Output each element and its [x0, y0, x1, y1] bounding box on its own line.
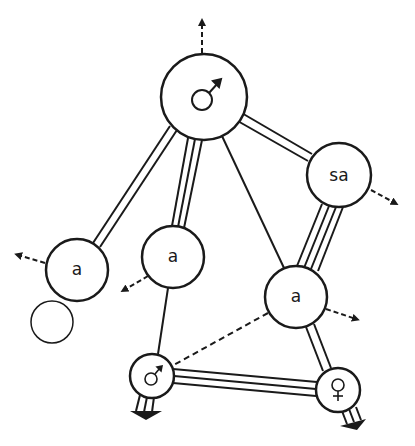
node-a-left: a — [46, 239, 108, 301]
node-label: sa — [329, 165, 348, 185]
dashed-arrow-a-left-left — [18, 255, 45, 263]
node-label: a — [168, 246, 178, 266]
dashed-arrow-sa-down-right — [371, 190, 395, 203]
node-top-male — [161, 54, 247, 140]
self-loop — [31, 301, 73, 343]
node-a-right: a — [265, 266, 327, 328]
node-female — [316, 368, 360, 412]
node-label: a — [72, 259, 82, 279]
edge-top-male-to-sa — [236, 112, 312, 161]
node-a-mid: a — [142, 226, 204, 288]
edge-top-male-to-a-mid — [172, 138, 202, 228]
dashed-arrow-a-right-right — [326, 309, 356, 319]
edge-top-male-to-a-right — [222, 136, 284, 268]
node-label: a — [291, 286, 301, 306]
grounded-output-small-male — [130, 395, 162, 420]
edge-small-male-to-female — [173, 369, 317, 396]
node-small-male — [130, 354, 174, 398]
edge-a-right-to-female — [306, 324, 331, 371]
edge-a-right-to-small-male-dashed — [172, 313, 268, 366]
edge-sa-to-a-right — [297, 204, 343, 271]
edge-a-mid-to-small-male — [158, 288, 168, 354]
role-network-diagram: sa a a a — [0, 0, 415, 446]
dashed-arrow-a-mid-down-left — [124, 276, 148, 290]
node-sa: sa — [307, 143, 371, 207]
